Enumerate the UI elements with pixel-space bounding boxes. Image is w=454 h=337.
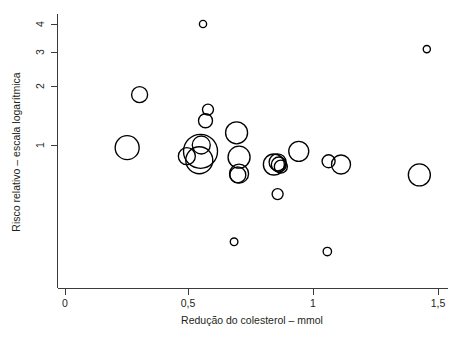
scatter-plot-figure: 1234 00,511,5 Redução do colesterol – mm… [0,0,454,337]
y-tick-label: 4 [34,21,46,27]
y-tick-label: 2 [34,83,46,89]
y-axis-title: Risco relativo – escala logarítmica [10,72,22,231]
y-tick-label: 1 [34,142,46,148]
x-tick-label: 0,5 [181,297,196,309]
x-tick-label: 1 [310,297,316,309]
x-axis-title: Redução do colesterol – mmol [181,314,323,326]
x-tick-label: 0 [62,297,68,309]
y-tick-label: 3 [34,49,46,55]
x-tick-label: 1,5 [431,297,446,309]
plot-background [0,0,454,337]
